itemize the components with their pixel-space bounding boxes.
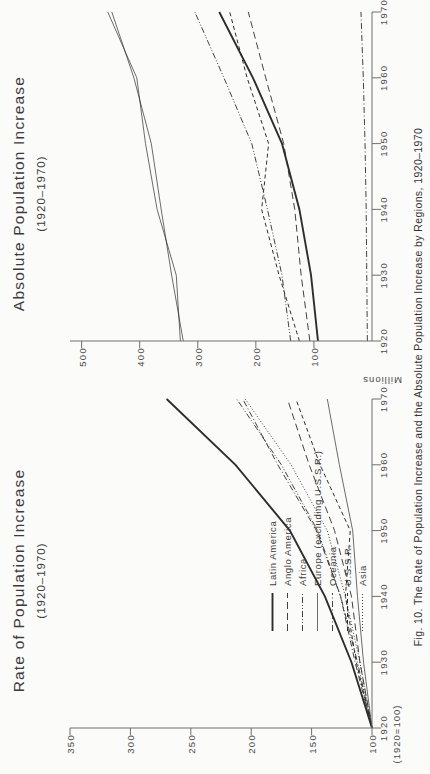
axes-canvas — [70, 12, 372, 341]
x-tick-label: 1950 — [378, 517, 389, 543]
x-tick-label: 1970 — [378, 0, 389, 25]
legend-swatch-dash-icon — [342, 592, 353, 632]
legend-label: U.S.S.R. — [342, 544, 353, 586]
x-tick-label: 1960 — [378, 452, 389, 478]
y-tick-label: 500 — [76, 347, 87, 367]
y-axis-label-right: Millions — [362, 375, 402, 386]
legend-swatch-dash-dot-icon — [327, 592, 338, 632]
legend: Latin AmericaAnglo AmericaAfricaEurope (… — [266, 450, 369, 632]
legend-label: Latin America — [267, 521, 278, 586]
plot-left: (1920=100) Latin AmericaAnglo AmericaAfr… — [70, 399, 372, 728]
y-tick-label: 300 — [125, 734, 136, 754]
x-tick-label: 1920 — [378, 328, 389, 354]
legend-swatch-dash-dot-dot-icon — [297, 592, 308, 632]
x-tick-label: 1940 — [378, 196, 389, 222]
y-tick-label: 350 — [65, 734, 76, 754]
panel-title-right: Absolute Population Increase — [10, 4, 28, 383]
panel-rate-of-population-increase: Rate of Population Increase (1920–1970) … — [0, 387, 412, 774]
plot-area-right — [70, 12, 372, 341]
y-tick-label: 150 — [306, 734, 317, 754]
panel-title-left: Rate of Population Increase — [10, 391, 28, 770]
panel-subtitle-right: (1920–1970) — [35, 4, 47, 383]
x-tick-label: 1930 — [378, 649, 389, 675]
legend-label: Europe (excluding U.S.S.R.) — [312, 450, 323, 586]
legend-label: Oceania — [327, 546, 338, 586]
legend-item-africa[interactable]: Africa — [296, 450, 309, 632]
x-tick-label: 1950 — [378, 130, 389, 156]
x-tick-label: 1970 — [378, 386, 389, 412]
y-axis-base-note-left: (1920=100) — [391, 705, 402, 764]
y-tick-label: 200 — [250, 347, 261, 367]
legend-swatch-solid-thin-icon — [312, 592, 323, 632]
y-tick-label: 400 — [134, 347, 145, 367]
legend-item-anglo-america[interactable]: Anglo America — [281, 450, 294, 632]
legend-label: Anglo America — [282, 517, 293, 586]
legend-swatch-solid-thick-icon — [267, 592, 278, 632]
panel-subtitle-left: (1920–1970) — [35, 391, 47, 770]
legend-item-oceania[interactable]: Oceania — [326, 450, 339, 632]
y-tick-label: 250 — [185, 734, 196, 754]
legend-label: Asia — [357, 565, 368, 586]
panels-row: Rate of Population Increase (1920–1970) … — [0, 0, 412, 774]
figure-caption: Fig. 10. The Rate of Population Increase… — [412, 0, 430, 774]
y-tick-label: 300 — [192, 347, 203, 367]
y-tick-label: 100 — [367, 734, 378, 754]
x-tick-label: 1960 — [378, 65, 389, 91]
legend-item-europe[interactable]: Europe (excluding U.S.S.R.) — [311, 450, 324, 632]
x-tick-label: 1920 — [378, 715, 389, 741]
legend-label: Africa — [297, 558, 308, 586]
legend-item-latin-america[interactable]: Latin America — [266, 450, 279, 632]
x-tick-label: 1940 — [378, 583, 389, 609]
y-tick-label: 200 — [246, 734, 257, 754]
panel-absolute-population-increase: Absolute Population Increase (1920–1970)… — [0, 0, 412, 387]
figure-page: Rate of Population Increase (1920–1970) … — [0, 0, 430, 774]
plot-right: Millions 1002003004005001920193019401950… — [70, 12, 372, 341]
y-tick-label: 100 — [308, 347, 319, 367]
legend-swatch-long-dash-icon — [282, 592, 293, 632]
x-tick-label: 1930 — [378, 262, 389, 288]
legend-item-asia[interactable]: Asia — [356, 450, 369, 632]
legend-item-ussr[interactable]: U.S.S.R. — [341, 450, 354, 632]
legend-swatch-dotted-icon — [357, 592, 368, 632]
figure-container: Rate of Population Increase (1920–1970) … — [0, 0, 430, 774]
